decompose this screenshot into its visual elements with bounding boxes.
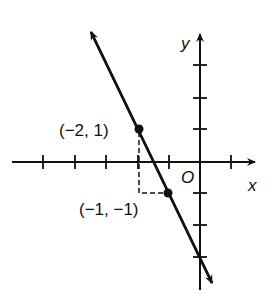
point-neg2-1	[135, 125, 144, 134]
point-label-2: (−1, −1)	[79, 200, 139, 219]
point-neg1-neg1	[164, 189, 173, 198]
y-axis-label: y	[180, 34, 191, 53]
coordinate-plane-diagram: y x O (−2, 1) (−1, −1)	[0, 0, 277, 297]
x-axis-label: x	[247, 176, 257, 195]
origin-label: O	[181, 168, 194, 187]
x-axis	[12, 155, 255, 169]
point-label-1: (−2, 1)	[59, 121, 109, 140]
